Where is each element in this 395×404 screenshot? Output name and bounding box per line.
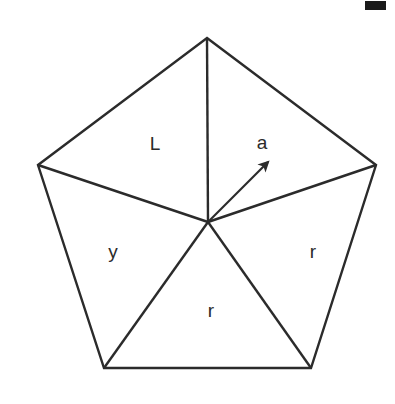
label-y: y <box>108 242 118 261</box>
label-radius-r-right: r <box>310 242 316 261</box>
label-radius-r-bottom: r <box>208 301 214 320</box>
label-apothem-a: a <box>257 133 268 152</box>
corner-crop-mark <box>365 1 386 10</box>
pentagon-figure <box>0 0 395 404</box>
radius-to-top <box>207 38 208 222</box>
label-side-length-L: L <box>150 134 161 153</box>
pentagon-diagram: L a y r r <box>0 0 395 404</box>
